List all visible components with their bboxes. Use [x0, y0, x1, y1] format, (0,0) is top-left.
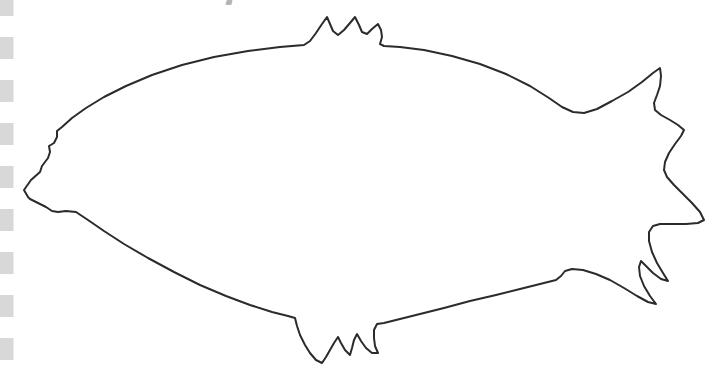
page-canvas: Fish Outline Line Art Black outline draw…: [0, 0, 718, 373]
fish-outline-illustration: [0, 0, 718, 373]
fish-outline-path: [24, 17, 704, 363]
scan-speck: [225, 0, 232, 5]
